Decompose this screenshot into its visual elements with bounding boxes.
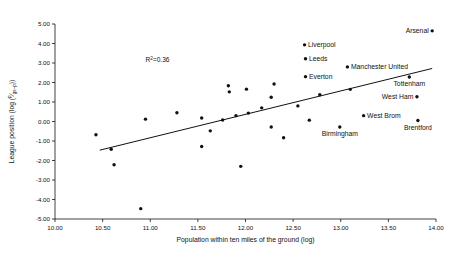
data-point [247, 111, 250, 114]
data-point-arsenal [430, 29, 433, 32]
data-point-tottenham [408, 75, 411, 78]
y-tick-label: 2.00 [38, 79, 51, 86]
y-title-denominator: gs–p [12, 84, 17, 94]
data-point-west-brom [362, 114, 365, 117]
data-point [239, 165, 242, 168]
data-point [272, 82, 275, 85]
x-tick-label: 11.50 [190, 224, 206, 231]
data-point-leeds [304, 57, 307, 60]
x-axis-title: Population within ten miles of the groun… [177, 236, 315, 244]
point-label-liverpool: Liverpool [308, 41, 336, 49]
data-point-brentford [416, 119, 419, 122]
data-point [260, 106, 263, 109]
point-label-arsenal: Arsenal [406, 27, 430, 34]
data-point [228, 90, 231, 93]
data-point [200, 116, 203, 119]
y-tick-label: -3.00 [36, 176, 51, 183]
data-point-manchester-united [346, 65, 349, 68]
r-squared-text: R2=0.36 [145, 56, 169, 63]
data-point [109, 147, 112, 150]
data-point [318, 93, 321, 96]
y-title-suffix: )) [8, 80, 16, 85]
y-tick-label: 3.00 [38, 59, 51, 66]
point-label-everton: Everton [309, 73, 333, 80]
data-point [200, 145, 203, 148]
data-point [144, 117, 147, 120]
point-label-leeds: Leeds [309, 55, 328, 62]
y-tick-label: -4.00 [36, 196, 51, 203]
y-tick-label: -5.00 [36, 215, 51, 222]
y-title-prefix: League position (log ( [8, 97, 16, 163]
data-point [245, 87, 248, 90]
data-point [94, 133, 97, 136]
y-tick-label: -1.00 [36, 137, 51, 144]
x-tick-label: 12.50 [285, 224, 301, 231]
r-value: =0.36 [153, 56, 170, 63]
point-label-west-brom: West Brom [367, 112, 401, 119]
data-point [139, 207, 142, 210]
data-point [221, 118, 224, 121]
y-tick-label: 0.00 [38, 118, 51, 125]
x-tick-label: 13.50 [381, 224, 397, 231]
x-tick-label: 14.00 [428, 224, 444, 231]
scatter-plot-svg: 10.0010.5011.0011.5012.0012.5013.0013.50… [0, 0, 453, 263]
point-label-west-ham: West Ham [382, 93, 414, 100]
data-point [227, 84, 230, 87]
data-point [308, 118, 311, 121]
data-point [234, 114, 237, 117]
data-point [270, 125, 273, 128]
scatter-chart-figure: 10.0010.5011.0011.5012.0012.5013.0013.50… [0, 0, 453, 263]
x-tick-label: 11.00 [143, 224, 159, 231]
data-point-everton [304, 75, 307, 78]
point-label-tottenham: Tottenham [393, 80, 425, 87]
y-tick-label: 4.00 [38, 40, 51, 47]
point-label-manchester-united: Manchester United [351, 63, 408, 70]
point-label-birmingham: Birmingham [322, 130, 359, 138]
data-point [282, 136, 285, 139]
y-tick-label: 5.00 [38, 20, 51, 27]
y-tick-label: 1.00 [38, 98, 51, 105]
x-tick-label: 10.50 [95, 224, 111, 231]
data-point [175, 111, 178, 114]
x-tick-label: 13.00 [333, 224, 349, 231]
x-tick-label: 10.00 [47, 224, 63, 231]
data-point-liverpool [303, 43, 306, 46]
data-point [349, 88, 352, 91]
data-point [112, 163, 115, 166]
data-point [296, 104, 299, 107]
data-point [209, 129, 212, 132]
r-squared-annotation: R2=0.36 [145, 56, 169, 63]
data-point-west-ham [415, 95, 418, 98]
point-label-brentford: Brentford [404, 124, 432, 131]
data-point-birmingham [338, 125, 341, 128]
x-tick-label: 12.00 [238, 224, 254, 231]
y-tick-label: -2.00 [36, 157, 51, 164]
data-point [270, 96, 273, 99]
